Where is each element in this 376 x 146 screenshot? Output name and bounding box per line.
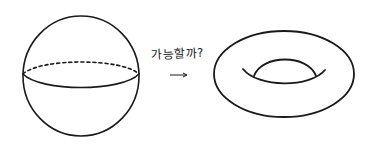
torus-outline [214, 31, 354, 117]
sphere-outline [23, 16, 139, 136]
sphere [23, 16, 139, 136]
torus [214, 31, 354, 117]
torus-hole-upper [254, 60, 316, 77]
arrow [170, 73, 187, 77]
diagram-canvas [0, 0, 376, 146]
sphere-equator-back [23, 62, 139, 74]
sphere-equator-front [23, 74, 139, 88]
caption-text: 가능할까? [151, 43, 205, 63]
